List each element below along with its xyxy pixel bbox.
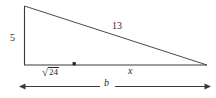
geometry-figure: 5 13 √24 x b: [0, 0, 216, 98]
label-base-total-b: b: [104, 78, 109, 88]
label-segment-left-sqrt: √24: [41, 67, 59, 78]
label-leg-vertical: 5: [10, 33, 15, 43]
radical-expression: √24: [41, 67, 59, 78]
radicand-value: 24: [48, 67, 59, 77]
base-division-point-marker: [73, 62, 76, 65]
dimension-arrowhead-left: [19, 84, 26, 90]
dimension-arrowhead-right: [205, 84, 212, 90]
label-segment-right-x: x: [128, 66, 132, 76]
triangle-hypotenuse: [25, 6, 208, 65]
label-hypotenuse: 13: [112, 21, 122, 31]
